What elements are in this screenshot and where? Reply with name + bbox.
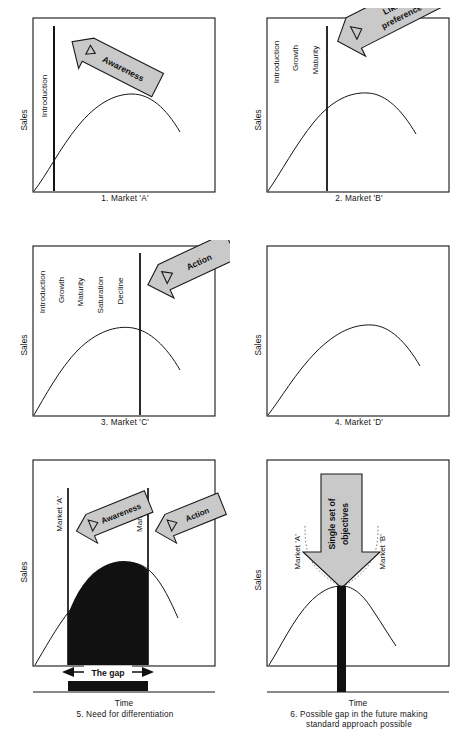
stage-label-decline: Decline: [116, 277, 125, 304]
y-axis-label: Sales: [20, 562, 29, 583]
life-cycle-curve: [34, 327, 180, 415]
stage-label-maturity: Maturity: [76, 277, 85, 307]
life-cycle-curve: [268, 93, 416, 191]
panel-1-caption: 1. Market 'A': [20, 194, 230, 204]
market-a-line-label: Market 'A': [55, 496, 64, 532]
panel-6-caption-line2: standard approach possible: [254, 720, 464, 730]
panel-possible-gap-future: Sales Market 'A' Market 'B' Single set o…: [254, 452, 464, 732]
objectives-arrow-label-line1: Single set of: [327, 498, 337, 549]
stage-label-maturity: Maturity: [311, 45, 320, 75]
stage-label-introduction: Introduction: [40, 75, 49, 117]
gap-measure: The gap: [62, 666, 154, 679]
y-axis-label: Sales: [20, 335, 29, 356]
action-arrow: Action: [142, 240, 230, 306]
stage-label-introduction: Introduction: [272, 41, 281, 83]
life-cycle-curve: [34, 94, 180, 191]
figure-sheet: Sales Introduction Awareness 1. Market '…: [0, 0, 467, 735]
y-axis-label: Sales: [254, 335, 263, 356]
market-a-leader-label: Market 'A': [293, 534, 302, 570]
gap-fill-region: [68, 561, 148, 665]
awareness-arrow: Awareness: [63, 30, 164, 104]
gap-bar: [68, 681, 148, 691]
panel-market-a: Sales Introduction Awareness 1. Market '…: [20, 8, 230, 208]
life-cycle-curve: [268, 325, 420, 415]
panel-3-chart: Sales Introduction Growth Maturity Satur…: [20, 240, 230, 435]
panel-5-caption: 5. Need for differentiation: [20, 710, 230, 720]
panel-need-for-differentiation: Sales Market 'A' Market 'C' Awareness Ac…: [20, 452, 230, 732]
y-axis-label: Sales: [254, 110, 263, 131]
life-cycle-curve: [269, 586, 396, 665]
chart-frame: [33, 18, 215, 192]
x-axis-label: Time: [115, 698, 134, 708]
panel-market-c: Sales Introduction Growth Maturity Satur…: [20, 240, 230, 435]
panel-market-d: Sales 4. Market 'D': [254, 240, 464, 435]
x-axis-label: Time: [349, 698, 368, 708]
panel-market-b: Sales Introduction Growth Maturity Likin…: [254, 8, 464, 208]
panel-6-caption-line1: 6. Possible gap in the future making: [254, 710, 464, 720]
panel-5-chart: Sales Market 'A' Market 'C' Awareness Ac…: [20, 452, 230, 732]
panel-1-chart: Sales Introduction Awareness: [20, 8, 230, 208]
y-axis-label: Sales: [254, 570, 263, 591]
gap-label: The gap: [92, 668, 125, 678]
objectives-arrow-label-line2: objectives: [340, 503, 350, 545]
panel-2-chart: Sales Introduction Growth Maturity Likin…: [254, 8, 464, 208]
panel-4-chart: Sales: [254, 240, 464, 435]
stage-label-growth: Growth: [57, 277, 66, 303]
panel-3-caption: 3. Market 'C': [20, 418, 230, 428]
convergence-bar: [337, 586, 346, 692]
stage-label-introduction: Introduction: [38, 271, 47, 313]
liking-preference-arrow: Liking- preference: [330, 8, 455, 64]
panel-4-caption: 4. Market 'D': [254, 418, 464, 428]
panel-2-caption: 2. Market 'B': [254, 194, 464, 204]
single-set-objectives-arrow: Single set of objectives: [303, 474, 380, 588]
panel-6-chart: Sales Market 'A' Market 'B' Single set o…: [254, 452, 464, 732]
stage-label-growth: Growth: [291, 45, 300, 71]
y-axis-label: Sales: [20, 110, 29, 131]
chart-frame: [267, 246, 449, 416]
action-arrow: Action: [151, 493, 229, 549]
stage-label-saturation: Saturation: [96, 277, 105, 314]
